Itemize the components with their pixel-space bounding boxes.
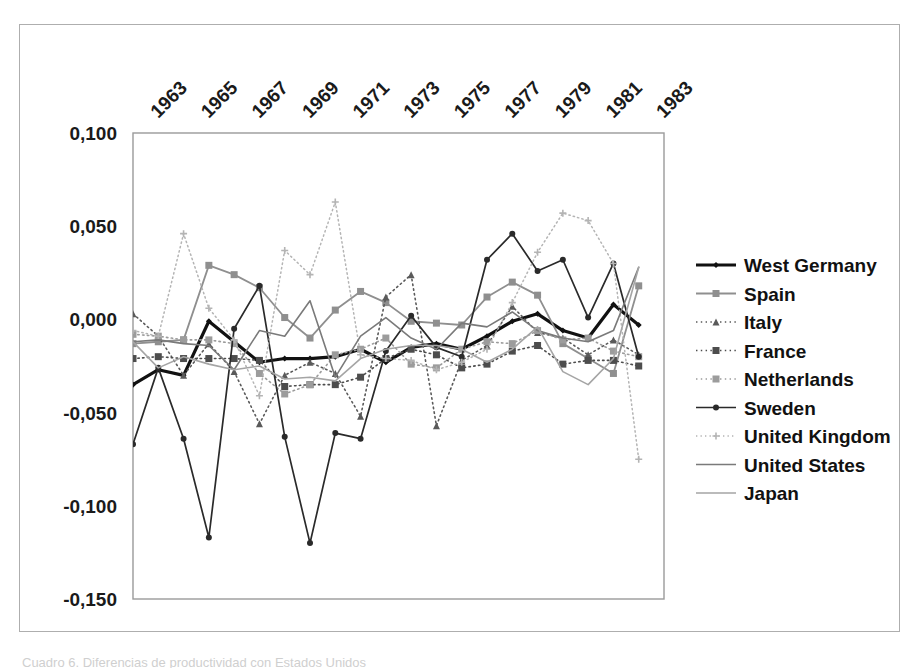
x-axis-tick-label: 1971	[349, 77, 394, 122]
data-point-marker	[256, 283, 262, 289]
data-point-marker	[585, 357, 592, 364]
data-point-marker	[155, 353, 162, 360]
data-point-marker	[130, 355, 137, 362]
data-point-marker	[130, 310, 137, 317]
data-point-marker	[205, 305, 212, 312]
data-point-marker	[332, 307, 339, 314]
legend-item-spain[interactable]: Spain	[696, 284, 796, 305]
y-axis-tick-label: 0,100	[69, 123, 117, 144]
data-point-marker	[713, 376, 720, 383]
x-axis-tick-label: 1977	[500, 77, 545, 122]
data-point-marker	[357, 374, 364, 381]
legend-item-sweden[interactable]: Sweden	[696, 398, 816, 419]
data-point-marker	[560, 257, 566, 263]
legend-label: United Kingdom	[744, 426, 891, 447]
y-axis-tick-label: -0,100	[63, 496, 117, 517]
legend-label: Spain	[744, 284, 796, 305]
x-axis-tick-label: 1973	[399, 77, 444, 122]
data-point-marker	[484, 294, 491, 301]
x-axis-tick-label: 1967	[247, 77, 292, 122]
data-point-marker	[307, 335, 314, 342]
data-point-marker	[307, 381, 314, 388]
legend-label: United States	[744, 455, 865, 476]
data-point-marker	[281, 314, 288, 321]
x-axis-tick-label: 1969	[298, 77, 343, 122]
figure-caption-clipped: Cuadro 6. Diferencias de productividad c…	[22, 655, 892, 668]
data-point-marker	[408, 271, 415, 278]
data-point-marker	[433, 351, 440, 358]
data-point-marker	[635, 363, 642, 370]
x-axis-tick-label: 1983	[652, 77, 697, 122]
line-chart: 0,1000,0500,000-0,050-0,100-0,1501963196…	[20, 25, 899, 631]
x-axis-tick-label: 1981	[601, 77, 646, 122]
data-point-marker	[433, 320, 440, 327]
data-point-marker	[231, 326, 237, 332]
y-axis-tick-label: 0,000	[69, 309, 117, 330]
data-point-marker	[205, 355, 212, 362]
data-point-marker	[635, 282, 642, 289]
data-point-marker	[256, 392, 263, 399]
data-point-marker	[206, 534, 212, 540]
data-point-marker	[181, 436, 187, 442]
data-point-marker	[559, 210, 566, 217]
data-point-marker	[357, 413, 364, 420]
data-point-marker	[281, 390, 288, 397]
data-point-marker	[332, 381, 339, 388]
legend-item-japan[interactable]: Japan	[696, 483, 799, 504]
data-point-marker	[332, 198, 339, 205]
figure-outer-frame: 0,1000,0500,000-0,050-0,100-0,1501963196…	[19, 24, 900, 632]
data-point-marker	[610, 336, 617, 343]
x-axis-tick-label: 1965	[197, 77, 242, 122]
data-point-marker	[408, 346, 415, 353]
data-point-marker	[534, 292, 541, 299]
y-axis-tick-label: -0,150	[63, 589, 117, 610]
figure-root: 0,1000,0500,000-0,050-0,100-0,1501963196…	[0, 0, 921, 668]
data-point-marker	[713, 347, 720, 354]
data-point-marker	[585, 217, 592, 224]
legend-label: Netherlands	[744, 369, 854, 390]
data-point-marker	[713, 319, 720, 326]
data-point-marker	[282, 434, 288, 440]
data-point-marker	[205, 336, 212, 343]
data-point-marker	[256, 370, 263, 377]
legend-item-france[interactable]: France	[696, 341, 806, 362]
data-point-marker	[713, 405, 719, 411]
data-point-marker	[256, 420, 263, 427]
legend-item-west-germany[interactable]: West Germany	[696, 255, 877, 276]
data-point-marker	[635, 456, 642, 463]
series-line	[133, 234, 639, 543]
data-point-marker	[610, 260, 617, 267]
data-point-marker	[180, 336, 187, 343]
data-point-marker	[357, 288, 364, 295]
data-point-marker	[332, 430, 338, 436]
data-point-marker	[408, 313, 414, 319]
data-point-marker	[636, 354, 642, 360]
data-point-marker	[535, 268, 541, 274]
data-point-marker	[509, 279, 516, 286]
data-point-marker	[358, 436, 364, 442]
x-axis-tick-label: 1979	[551, 77, 596, 122]
legend-item-united-states[interactable]: United States	[696, 455, 865, 476]
data-point-marker	[713, 262, 719, 268]
data-point-marker	[256, 357, 263, 364]
data-point-marker	[585, 315, 591, 321]
series-sweden	[130, 231, 642, 546]
data-point-marker	[713, 290, 720, 297]
y-axis-tick-label: 0,050	[69, 216, 117, 237]
legend-label: Italy	[744, 312, 782, 333]
data-point-marker	[713, 433, 720, 440]
data-point-marker	[382, 294, 389, 301]
data-point-marker	[534, 342, 541, 349]
plot-area-border	[133, 133, 664, 599]
data-point-marker	[205, 262, 212, 269]
legend-item-united-kingdom[interactable]: United Kingdom	[696, 426, 891, 447]
y-axis-tick-label: -0,050	[63, 403, 117, 424]
legend-item-netherlands[interactable]: Netherlands	[696, 369, 854, 390]
data-point-marker	[231, 271, 238, 278]
legend-item-italy[interactable]: Italy	[696, 312, 782, 333]
x-axis-tick-label: 1975	[450, 77, 495, 122]
data-point-marker	[332, 351, 339, 358]
legend-label: France	[744, 341, 806, 362]
data-point-marker	[231, 355, 238, 362]
data-point-marker	[180, 230, 187, 237]
